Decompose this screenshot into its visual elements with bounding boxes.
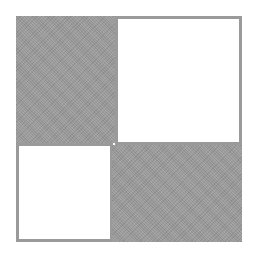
cell-top-left-filled — [16, 16, 115, 143]
cell-bottom-right-filled — [112, 145, 242, 242]
checkerboard-diagram — [0, 0, 255, 255]
cell-top-right-empty — [115, 16, 242, 145]
cell-bottom-left-empty — [16, 143, 113, 242]
